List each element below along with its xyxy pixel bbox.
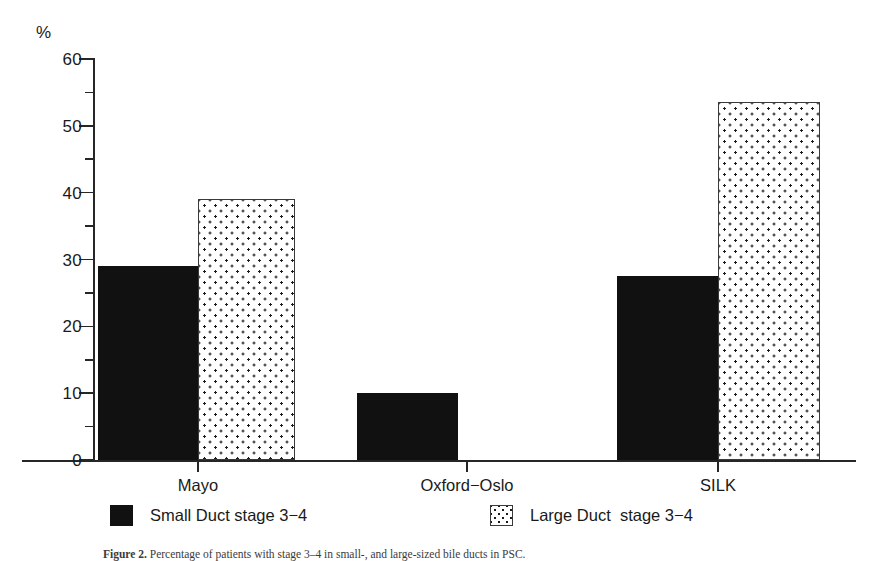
figure-root: % 6050403020100 MayoOxford−OsloSILK Smal… — [0, 0, 877, 561]
bar-mayo-small-duct — [98, 266, 198, 460]
legend-swatch-dotted-icon — [490, 505, 513, 526]
y-axis-tick-55 — [85, 92, 93, 94]
y-axis-line — [93, 58, 95, 461]
figure-caption: Figure 2. Percentage of patients with st… — [103, 548, 803, 561]
y-axis-label-30: 30 — [22, 252, 82, 269]
legend-label-small-duct: Small Duct stage 3−4 — [150, 507, 307, 524]
y-axis-label-60: 60 — [22, 51, 82, 68]
bar-oxford-oslo-small-duct — [357, 393, 458, 460]
bar-chart-plot-area: % 6050403020100 MayoOxford−OsloSILK — [0, 0, 877, 561]
figure-caption-label: Figure 2. — [103, 548, 147, 560]
y-axis-tick-15 — [85, 359, 93, 361]
y-axis-tick-25 — [85, 292, 93, 294]
legend-swatch-solid-icon — [110, 505, 133, 526]
bar-silk-small-duct — [617, 276, 718, 460]
y-axis-unit-label: % — [36, 24, 51, 41]
x-axis-tick-2 — [717, 461, 719, 472]
figure-caption-text: Percentage of patients with stage 3–4 in… — [147, 548, 526, 560]
x-axis-label-mayo: Mayo — [178, 477, 218, 494]
x-axis-tick-1 — [466, 461, 468, 472]
y-axis-tick-5 — [85, 426, 93, 428]
legend-item-small-duct: Small Duct stage 3−4 — [110, 503, 307, 527]
y-axis-label-10: 10 — [22, 385, 82, 402]
y-axis-tick-35 — [85, 225, 93, 227]
bar-silk-large-duct — [718, 102, 820, 460]
chart-legend: Small Duct stage 3−4 Large Duct stage 3−… — [0, 503, 877, 531]
y-axis-label-20: 20 — [22, 318, 82, 335]
legend-label-large-duct: Large Duct stage 3−4 — [530, 507, 693, 524]
y-axis-label-0: 0 — [22, 452, 82, 469]
legend-item-large-duct: Large Duct stage 3−4 — [490, 503, 693, 527]
bar-mayo-large-duct — [198, 199, 295, 460]
y-axis-label-40: 40 — [22, 185, 82, 202]
x-axis-tick-0 — [197, 461, 199, 472]
x-axis-label-oxford-oslo: Oxford−Oslo — [420, 477, 513, 494]
y-axis-label-50: 50 — [22, 118, 82, 135]
x-axis-line — [22, 460, 856, 462]
y-axis-tick-45 — [85, 158, 93, 160]
x-axis-label-silk: SILK — [700, 477, 736, 494]
